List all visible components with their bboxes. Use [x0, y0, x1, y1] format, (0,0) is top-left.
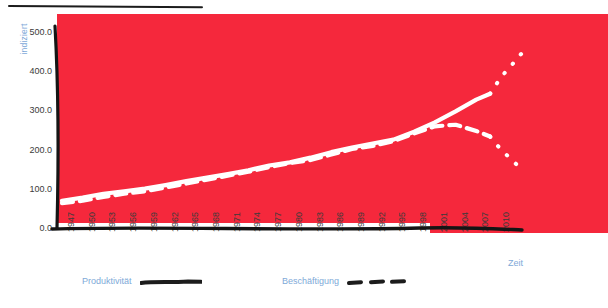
- legend-label-beschaeftigung: Beschäftigung: [282, 276, 339, 286]
- series-plot-layer: [0, 0, 608, 308]
- legend-swatch-solid: [140, 278, 202, 284]
- series-line-0: [62, 94, 490, 201]
- series-line-3: [490, 136, 525, 170]
- legend-entry-produktivitaet: Produktivität: [82, 276, 202, 286]
- legend-entry-beschaeftigung: Beschäftigung: [282, 276, 409, 286]
- chart-legend: Produktivität Beschäftigung: [0, 276, 608, 300]
- series-line-1: [490, 51, 525, 94]
- chart-root: indiziert 500.0400.0300.0200.0100.00.0 1…: [0, 0, 608, 308]
- legend-swatch-dashed: [347, 278, 409, 284]
- legend-label-produktivitaet: Produktivität: [82, 276, 132, 286]
